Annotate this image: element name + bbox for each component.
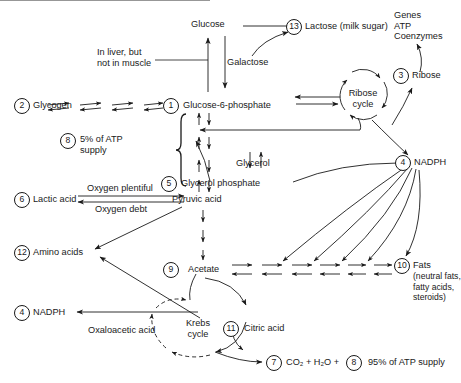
node-glucose-6-phosphate: Glucose-6-phosphate (183, 100, 271, 111)
node-oxaloacetic-acid: Oxaloacetic acid (88, 325, 155, 336)
arrow-nadph-fan-1 (283, 168, 404, 261)
annotation-oxygen-debt: Oxygen debt (95, 204, 147, 215)
marker-11: 11 (223, 321, 239, 337)
arrow-glycogen-f3 (112, 103, 133, 105)
marker-1: 1 (163, 98, 179, 114)
marker-2: 2 (14, 98, 30, 114)
node-lactose: Lactose (milk sugar) (305, 21, 388, 32)
arrow-nadph-fan-2 (314, 168, 408, 261)
node-fats-subtitle: (neutral fats, fatty acids, steroids) (413, 271, 461, 303)
arc-krebs-bottom (172, 352, 210, 357)
marker-12: 12 (14, 245, 30, 261)
arrow-glycogen-f4 (144, 103, 163, 105)
node-ribose-cycle: Ribose cycle (343, 88, 383, 109)
node-co2-h2o: CO₂ + H₂O + (286, 357, 339, 368)
marker-5: 5 (161, 176, 177, 192)
metabolic-pathway-diagram: Glucose In liver, but not in muscle 13 L… (0, 0, 461, 383)
marker-8b: 8 (346, 355, 362, 371)
label-atp-5-percent: 5% of ATP supply (80, 134, 123, 155)
arrow-ribose-to-genes (417, 44, 421, 72)
arrow-krebs-to-co2 (215, 352, 262, 362)
arrow-glycogen-r3 (112, 108, 133, 110)
node-glycogen: Glycogen (33, 100, 72, 111)
arc-ribose-bottom (350, 115, 377, 120)
marker-13: 13 (286, 19, 302, 35)
marker-4-left: 4 (14, 305, 30, 321)
marker-7: 7 (266, 355, 282, 371)
arrow-ribosecycle-to-ribose (392, 88, 412, 125)
node-glucose: Glucose (191, 19, 225, 30)
marker-8a: 8 (60, 133, 76, 149)
node-lactic-acid: Lactic acid (33, 194, 76, 205)
annotation-liver: In liver, but not in muscle (97, 47, 151, 68)
node-galactose: Galactose (227, 57, 268, 68)
node-acetate: Acetate (188, 264, 219, 275)
arc-ribose-top (352, 69, 380, 78)
arrow-glycogen-r4 (144, 108, 163, 110)
brace-glycolysis (176, 114, 186, 186)
node-nadph-left: NADPH (33, 307, 65, 318)
node-fats: Fats (413, 260, 431, 271)
marker-10: 10 (394, 258, 410, 274)
arrow-glycogen-r2 (80, 108, 101, 110)
node-pyruvic-acid: Pyruvic acid (172, 194, 222, 205)
arrow-glycerolphosphate-to-column (196, 141, 210, 181)
arrow-glycogen-f2 (80, 103, 101, 105)
marker-3: 3 (393, 68, 409, 84)
node-citric-acid: Citric acid (244, 323, 284, 334)
node-nadph-right: NADPH (414, 157, 446, 168)
label-atp-95-percent: 95% of ATP supply (368, 357, 445, 368)
node-amino-acids: Amino acids (33, 247, 83, 258)
marker-4-right: 4 (395, 155, 411, 171)
arc-krebs-to-citric (205, 278, 246, 305)
node-glycerol: Glycerol (236, 158, 270, 169)
node-glycerol-phosphate: Glycerol phosphate (181, 178, 260, 189)
node-genes-atp-coenzymes: Genes ATP Coenzymes (394, 10, 443, 42)
node-krebs-cycle: Krebs cycle (180, 318, 216, 339)
marker-6: 6 (14, 192, 30, 208)
marker-9: 9 (163, 262, 179, 278)
arrow-krebs-to-amino (100, 257, 200, 318)
arrow-nadph-fan-4 (368, 169, 416, 261)
line-nadph-to-glycerolphosphate (293, 163, 398, 182)
connector-acetate-krebs (190, 274, 196, 300)
node-ribose: Ribose (412, 70, 441, 81)
arrow-galactose-to-lactose (252, 32, 288, 56)
arrow-ribosecycle-to-nadph (372, 120, 408, 155)
annotation-oxygen-plentiful: Oxygen plentiful (87, 183, 153, 194)
